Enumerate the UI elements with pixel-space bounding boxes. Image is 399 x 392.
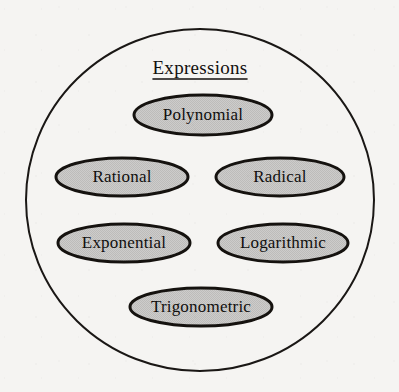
diagram-canvas: Expressions Polynomial Rational Radical … (0, 0, 399, 392)
set-member-rational[interactable]: Rational (56, 158, 188, 196)
set-member-radical[interactable]: Radical (216, 158, 344, 196)
member-label: Trigonometric (151, 297, 251, 316)
member-label: Exponential (82, 233, 166, 252)
member-label: Polynomial (163, 105, 243, 124)
set-member-trigonometric[interactable]: Trigonometric (130, 288, 272, 326)
expressions-set-diagram: Expressions Polynomial Rational Radical … (0, 0, 399, 392)
set-member-exponential[interactable]: Exponential (58, 224, 190, 262)
member-label: Radical (253, 167, 306, 186)
universe-title: Expressions (152, 57, 247, 78)
member-label: Rational (92, 167, 151, 186)
member-label: Logarithmic (240, 233, 326, 252)
set-member-polynomial[interactable]: Polynomial (134, 95, 272, 135)
set-member-logarithmic[interactable]: Logarithmic (218, 224, 348, 262)
